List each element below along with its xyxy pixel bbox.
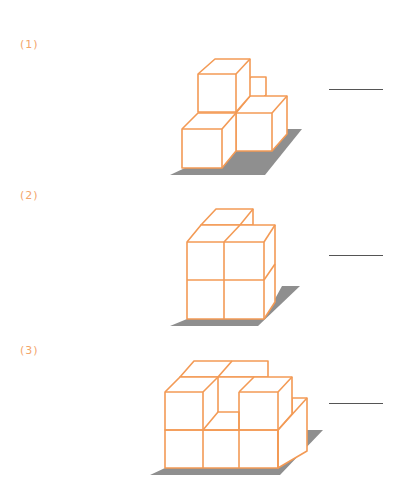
figure-2-cube-stack [170, 209, 300, 326]
figure-1-cube-stack [170, 59, 302, 175]
cube-figures [0, 0, 403, 485]
figure-3-cube-stack [150, 361, 323, 475]
